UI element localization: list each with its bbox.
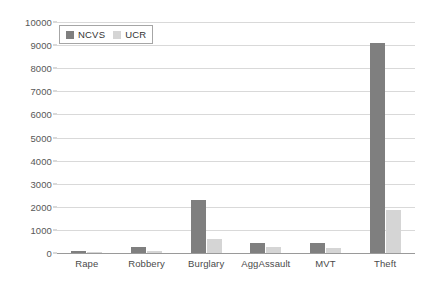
y-tick-label: 5000 — [0, 132, 52, 143]
y-tick-label: 8000 — [0, 63, 52, 74]
x-tick-label: Burglary — [188, 258, 224, 269]
bar-group — [236, 22, 296, 253]
bar-ncvs-robbery — [131, 247, 146, 253]
bar-ucr-burglary — [207, 239, 222, 253]
y-tick-label: 9000 — [0, 40, 52, 51]
bar-ucr-mvt — [326, 248, 341, 253]
bar-ncvs-burglary — [191, 200, 206, 253]
bar-chart: 0100020003000400050006000700080009000100… — [0, 0, 429, 289]
bar-group — [296, 22, 356, 253]
legend-swatch-icon — [113, 31, 121, 39]
bar-group — [355, 22, 415, 253]
y-tick-label: 1000 — [0, 224, 52, 235]
y-axis: 0100020003000400050006000700080009000100… — [0, 22, 52, 253]
legend-swatch-icon — [66, 31, 74, 39]
bar-group — [117, 22, 177, 253]
legend-label: NCVS — [78, 29, 105, 40]
y-tick-label: 7000 — [0, 86, 52, 97]
y-tick-label: 10000 — [0, 17, 52, 28]
y-tick-label: 2000 — [0, 201, 52, 212]
bar-ucr-robbery — [147, 251, 162, 253]
x-tick-label: Rape — [75, 258, 98, 269]
x-tick-label: Robbery — [128, 258, 165, 269]
y-tick-label: 0 — [0, 248, 52, 259]
axis-baseline — [57, 253, 415, 254]
x-tick-label: AggAssault — [241, 258, 290, 269]
legend-label: UCR — [125, 29, 146, 40]
bar-ucr-rape — [87, 252, 102, 253]
y-tick-label: 4000 — [0, 155, 52, 166]
y-tick-label: 6000 — [0, 109, 52, 120]
bar-ncvs-rape — [71, 251, 86, 253]
y-tick-label: 3000 — [0, 178, 52, 189]
bars-layer — [57, 22, 415, 253]
bar-ucr-aggassault — [266, 247, 281, 253]
bar-ncvs-mvt — [310, 243, 325, 253]
bar-ucr-theft — [386, 210, 401, 253]
bar-ncvs-aggassault — [250, 243, 265, 253]
legend-item-ucr: UCR — [113, 29, 146, 40]
x-axis: RapeRobberyBurglaryAggAssaultMVTTheft — [57, 258, 415, 276]
legend-item-ncvs: NCVS — [66, 29, 105, 40]
chart-legend: NCVSUCR — [59, 25, 153, 44]
bar-ncvs-theft — [370, 43, 385, 253]
bar-group — [176, 22, 236, 253]
x-tick-label: MVT — [315, 258, 335, 269]
bar-group — [57, 22, 117, 253]
x-tick-label: Theft — [374, 258, 396, 269]
